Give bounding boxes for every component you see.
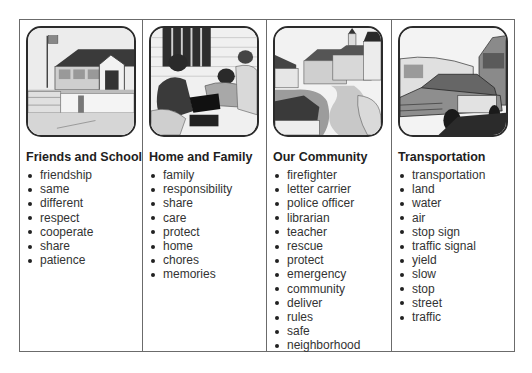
vocabulary-table: Friends and School friendship same diffe… [19, 19, 515, 352]
word-item: neighborhood [273, 338, 360, 352]
word-item: slow [398, 267, 485, 281]
family-playing-image [149, 26, 259, 137]
word-item: patience [26, 253, 93, 267]
word-item: traffic signal [398, 239, 485, 253]
word-item: yield [398, 253, 485, 267]
column-heading: Transportation [398, 150, 486, 164]
word-list: friendship same different respect cooper… [26, 168, 93, 267]
word-item: safe [273, 324, 360, 338]
word-item: air [398, 211, 485, 225]
word-item: street [398, 296, 485, 310]
word-item: firefighter [273, 168, 360, 182]
word-item: responsibility [149, 182, 232, 196]
cars-and-bus-image [398, 26, 508, 137]
word-item: share [26, 239, 93, 253]
word-item: rescue [273, 239, 360, 253]
word-item: protect [273, 253, 360, 267]
word-item: cooperate [26, 225, 93, 239]
word-item: community [273, 282, 360, 296]
word-item: chores [149, 253, 232, 267]
word-item: friendship [26, 168, 93, 182]
word-item: police officer [273, 196, 360, 210]
word-list: transportation land water air stop sign … [398, 168, 485, 324]
word-item: protect [149, 225, 232, 239]
word-item: same [26, 182, 93, 196]
word-item: emergency [273, 267, 360, 281]
word-item: respect [26, 211, 93, 225]
word-item: family [149, 168, 232, 182]
town-street-image [273, 26, 383, 137]
word-item: transportation [398, 168, 485, 182]
column-heading: Friends and School [26, 150, 142, 164]
word-item: home [149, 239, 232, 253]
word-item: stop sign [398, 225, 485, 239]
word-item: share [149, 196, 232, 210]
word-item: stop [398, 282, 485, 296]
word-item: librarian [273, 211, 360, 225]
school-building-image [26, 26, 136, 137]
word-item: deliver [273, 296, 360, 310]
column-transportation: Transportation transportation land water… [392, 20, 514, 351]
column-home-and-family: Home and Family family responsibility sh… [143, 20, 267, 351]
word-item: different [26, 196, 93, 210]
word-item: traffic [398, 310, 485, 324]
word-item: land [398, 182, 485, 196]
word-list: firefighter letter carrier police office… [273, 168, 360, 353]
word-item: teacher [273, 225, 360, 239]
word-item: letter carrier [273, 182, 360, 196]
column-heading: Home and Family [149, 150, 253, 164]
column-friends-and-school: Friends and School friendship same diffe… [20, 20, 143, 351]
word-item: memories [149, 267, 232, 281]
word-item: rules [273, 310, 360, 324]
word-item: care [149, 211, 232, 225]
word-list: family responsibility share care protect… [149, 168, 232, 282]
word-item: water [398, 196, 485, 210]
column-heading: Our Community [273, 150, 367, 164]
column-our-community: Our Community firefighter letter carrier… [267, 20, 392, 351]
